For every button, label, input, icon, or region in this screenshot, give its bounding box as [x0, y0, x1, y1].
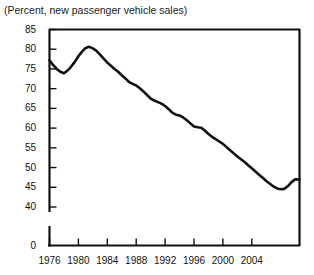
x-tick-label: 1988	[125, 256, 147, 266]
chart-plot-area	[0, 0, 314, 275]
x-tick-label: 1996	[183, 256, 205, 266]
chart-container: (Percent, new passenger vehicle sales) 8…	[0, 0, 314, 275]
axis-frame	[48, 29, 300, 247]
x-tick-label: 2000	[212, 256, 234, 266]
data-line-series-0	[50, 47, 300, 189]
x-tick-label: 1976	[38, 256, 60, 266]
x-tick-label: 2004	[241, 256, 263, 266]
x-tick-label: 1984	[96, 256, 118, 266]
x-tick-label: 1992	[154, 256, 176, 266]
x-tick-label: 1980	[67, 256, 89, 266]
